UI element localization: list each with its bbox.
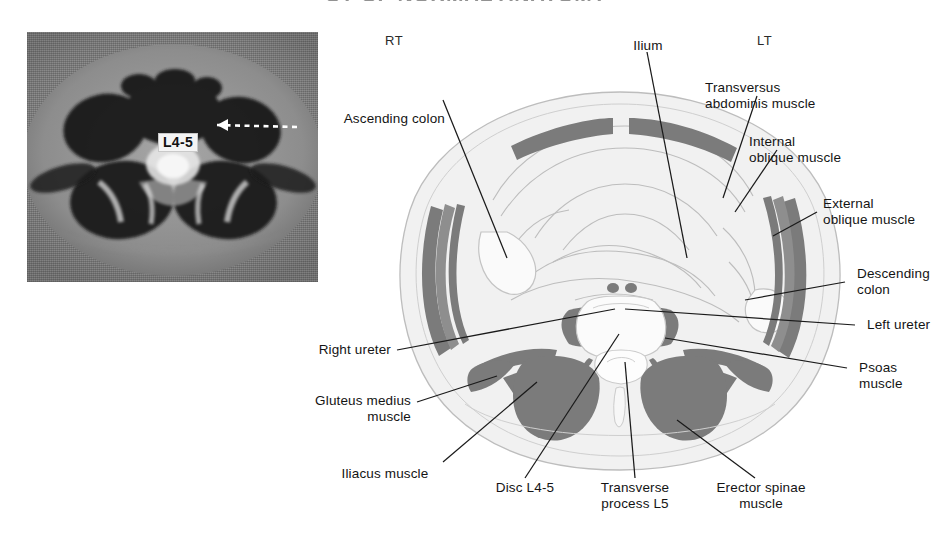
anatomy-line-drawing: RT LT .mus{fill:#7b7b7b;} .musL{fill:#8e…	[325, 0, 916, 538]
label-transverse-process-l5: Transverse process L5	[575, 480, 695, 511]
label-iliacus-muscle: Iliacus muscle	[317, 466, 453, 482]
label-internal-oblique: Internal oblique muscle	[749, 134, 899, 165]
label-gluteus-medius: Gluteus medius muscle	[245, 393, 411, 424]
label-ilium: Ilium	[613, 38, 683, 54]
label-disc-l4-5: Disc L4-5	[467, 480, 583, 496]
ivc-shape	[625, 283, 637, 293]
label-left-ureter: Left ureter	[867, 317, 935, 333]
label-external-oblique: External oblique muscle	[823, 196, 935, 227]
label-psoas-muscle: Psoas muscle	[859, 360, 935, 391]
mri-image-panel: L4-5	[27, 32, 318, 282]
mri-level-label: L4-5	[158, 133, 198, 152]
label-descending-colon: Descending colon	[857, 266, 935, 297]
label-erector-spinae: Erector spinae muscle	[691, 480, 831, 511]
label-right-ureter: Right ureter	[263, 342, 391, 358]
label-transversus-abdominis: Transversus abdominis muscle	[705, 80, 855, 111]
label-ascending-colon: Ascending colon	[315, 111, 445, 127]
mri-anatomy-overlay	[27, 32, 318, 282]
aorta-shape	[607, 283, 619, 293]
spinal-canal-shape	[595, 350, 647, 384]
spinous-process-shape	[614, 387, 626, 427]
